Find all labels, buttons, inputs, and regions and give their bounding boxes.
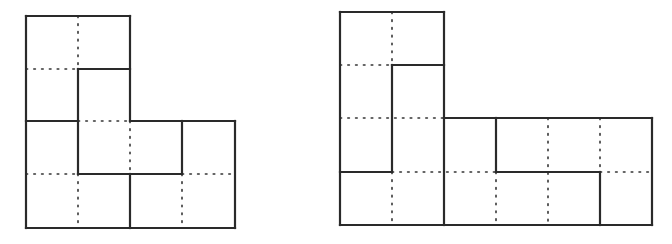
tiling-diagram: [0, 0, 672, 244]
right-figure: [340, 12, 652, 225]
left-figure: [26, 16, 235, 228]
